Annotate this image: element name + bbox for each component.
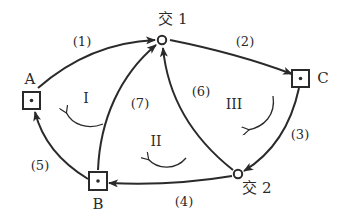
region-arrow-III [248,96,273,130]
edge-label-1: (1) [73,35,91,48]
edge-6 [163,48,233,170]
node-label-jiao1: 交 1 [158,12,187,27]
node-B-icon [89,172,107,190]
node-jiao2-icon [234,170,242,178]
region-label-I: I [83,91,89,105]
region-arrow-II [148,158,186,167]
node-label-A: A [25,72,36,87]
node-label-B: B [92,197,103,212]
region-arrow-I [66,112,103,127]
node-label-C: C [317,71,328,86]
node-label-jiao2: 交 2 [242,181,271,196]
edge-label-4: (4) [175,195,193,208]
node-jiao1-icon [158,36,166,44]
edge-2 [170,40,292,74]
edge-label-2: (2) [236,35,254,48]
edge-label-7: (7) [131,97,149,110]
graph-canvas [0,0,346,221]
edge-label-6: (6) [192,85,210,98]
node-C-icon [292,70,309,87]
region-label-II: II [150,134,161,148]
node-A-icon [23,92,40,109]
edge-label-3: (3) [291,128,309,141]
edge-label-5: (5) [31,159,49,172]
edge-4 [109,176,232,184]
region-label-III: III [226,97,243,111]
